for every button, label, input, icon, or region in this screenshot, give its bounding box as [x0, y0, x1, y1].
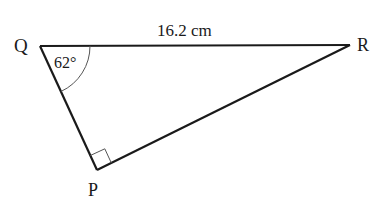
side-pr [97, 45, 350, 170]
angle-label-q: 62° [54, 54, 76, 71]
side-qr [40, 45, 350, 46]
side-length-qr: 16.2 cm [157, 21, 212, 40]
triangle-diagram: Q R P 16.2 cm 62° [0, 0, 384, 204]
vertex-label-p: P [88, 180, 98, 200]
vertex-label-q: Q [14, 35, 28, 56]
vertex-label-r: R [357, 35, 369, 55]
